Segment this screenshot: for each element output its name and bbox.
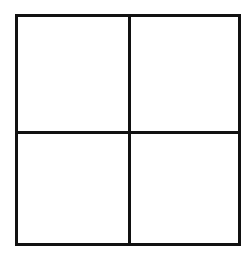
grid-cell-bottom-left: [18, 134, 128, 243]
vertical-divider-line: [128, 17, 131, 243]
grid-cell-top-left: [18, 17, 128, 131]
grid-cell-bottom-right: [131, 134, 238, 243]
two-by-two-grid: [15, 14, 241, 246]
grid-cell-top-right: [131, 17, 238, 131]
horizontal-divider-line: [18, 131, 238, 134]
